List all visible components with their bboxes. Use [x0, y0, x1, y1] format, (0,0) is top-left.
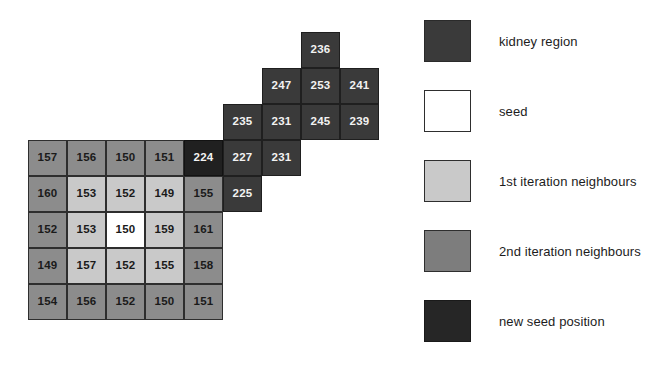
grid-cell: 157	[67, 248, 106, 284]
grid-cell: 152	[106, 176, 145, 212]
grid-cell: 149	[145, 176, 184, 212]
grid-cell: 239	[340, 104, 379, 140]
grid-cell: 153	[67, 176, 106, 212]
grid-cell: 152	[106, 284, 145, 320]
grid-cell: 158	[184, 248, 223, 284]
grid-cell: 231	[262, 140, 301, 176]
grid-cell: 153	[67, 212, 106, 248]
grid-cell: 253	[301, 68, 340, 104]
grid-cell: 152	[28, 212, 67, 248]
grid-cell: 156	[67, 284, 106, 320]
legend-item: new seed position	[424, 298, 605, 344]
legend-swatch-icon	[424, 230, 471, 272]
legend-item-label: 1st iteration neighbours	[499, 174, 637, 189]
grid-cell: 160	[28, 176, 67, 212]
pixel-intensity-grid: 2362472532412352312452391571561501512242…	[0, 0, 410, 380]
grid-cell: 245	[301, 104, 340, 140]
legend-swatch-icon	[424, 90, 471, 132]
legend-item-label: kidney region	[499, 34, 578, 49]
grid-cell: 159	[145, 212, 184, 248]
grid-cell: 155	[145, 248, 184, 284]
grid-cell: 151	[184, 284, 223, 320]
grid-cell: 225	[223, 176, 262, 212]
legend: kidney regionseed1st iteration neighbour…	[424, 0, 652, 380]
grid-cell: 161	[184, 212, 223, 248]
legend-item-label: 2nd iteration neighbours	[499, 244, 641, 259]
legend-swatch-icon	[424, 20, 471, 62]
legend-swatch-icon	[424, 300, 471, 342]
grid-cell: 150	[106, 140, 145, 176]
legend-item: 1st iteration neighbours	[424, 158, 637, 204]
segmentation-figure: 2362472532412352312452391571561501512242…	[0, 0, 652, 380]
grid-cell: 154	[28, 284, 67, 320]
grid-cell: 236	[301, 32, 340, 68]
legend-item: kidney region	[424, 18, 578, 64]
legend-item: seed	[424, 88, 528, 134]
grid-cell: 235	[223, 104, 262, 140]
legend-item-label: new seed position	[499, 314, 605, 329]
grid-cell: 150	[145, 284, 184, 320]
grid-cell: 152	[106, 248, 145, 284]
grid-cell: 155	[184, 176, 223, 212]
grid-cell: 224	[184, 140, 223, 176]
grid-cell: 231	[262, 104, 301, 140]
grid-cell: 149	[28, 248, 67, 284]
grid-cell: 151	[145, 140, 184, 176]
grid-cell: 150	[106, 212, 145, 248]
grid-cell: 156	[67, 140, 106, 176]
grid-cell: 241	[340, 68, 379, 104]
grid-cell: 157	[28, 140, 67, 176]
grid-cell: 227	[223, 140, 262, 176]
legend-swatch-icon	[424, 160, 471, 202]
grid-cell: 247	[262, 68, 301, 104]
legend-item: 2nd iteration neighbours	[424, 228, 641, 274]
legend-item-label: seed	[499, 104, 528, 119]
